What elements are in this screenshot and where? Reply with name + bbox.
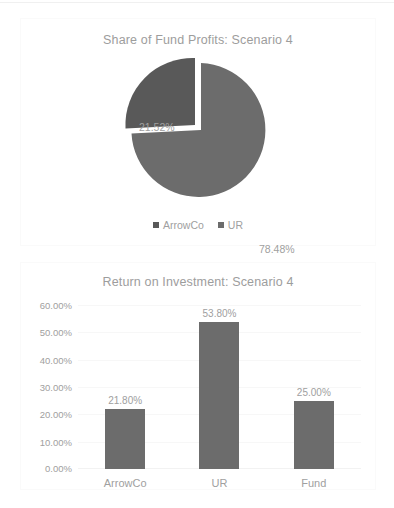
bar-arrowco[interactable]: 21.80% xyxy=(105,409,145,469)
pie-graphic xyxy=(109,55,289,205)
pie-chart-title: Share of Fund Profits: Scenario 4 xyxy=(21,33,375,47)
x-axis-tick-label-fund: Fund xyxy=(301,477,326,489)
bar-ur[interactable]: 53.80% xyxy=(199,322,239,469)
x-axis-tick-label-ur: UR xyxy=(212,477,228,489)
bar-value-label-arrowco: 21.80% xyxy=(108,395,142,406)
bar-value-label-fund: 25.00% xyxy=(297,387,331,398)
bar-value-label-ur: 53.80% xyxy=(203,308,237,319)
pie-data-label-ur: 78.48% xyxy=(259,243,295,255)
page-top-divider xyxy=(0,2,394,3)
bar-column-ur: 53.80% UR xyxy=(172,305,266,469)
bar-fund[interactable]: 25.00% xyxy=(294,401,334,469)
x-axis-tick-label-arrowco: ArrowCo xyxy=(104,477,147,489)
y-axis-tick-label: 10.00% xyxy=(40,436,72,447)
y-axis-tick-label: 20.00% xyxy=(40,409,72,420)
y-axis-tick-label: 60.00% xyxy=(40,300,72,311)
pie-legend: ArrowCo UR xyxy=(21,219,375,231)
bar-column-fund: 25.00% Fund xyxy=(267,305,361,469)
legend-item-arrowco[interactable]: ArrowCo xyxy=(153,219,204,231)
pie-slice-arrowco[interactable] xyxy=(125,58,195,129)
y-axis-tick-label: 30.00% xyxy=(40,382,72,393)
bar-chart-panel[interactable]: Return on Investment: Scenario 4 60.00% … xyxy=(20,262,376,490)
legend-label-arrowco: ArrowCo xyxy=(163,219,204,231)
legend-item-ur[interactable]: UR xyxy=(218,219,243,231)
pie-chart-panel[interactable]: Share of Fund Profits: Scenario 4 21.52%… xyxy=(20,18,376,246)
pie-plot-area: 21.52% 78.48% xyxy=(21,55,377,205)
y-axis-tick-label: 50.00% xyxy=(40,327,72,338)
bar-chart-title: Return on Investment: Scenario 4 xyxy=(21,275,375,289)
pie-data-label-arrowco: 21.52% xyxy=(139,121,175,133)
y-axis-tick-label: 0.00% xyxy=(45,463,72,474)
legend-label-ur: UR xyxy=(228,219,243,231)
y-axis-tick-label: 40.00% xyxy=(40,354,72,365)
bar-column-arrowco: 21.80% ArrowCo xyxy=(78,305,172,469)
bar-plot-area: 60.00% 50.00% 40.00% 30.00% 20.00% 10.00… xyxy=(78,305,361,469)
legend-swatch-icon xyxy=(153,222,159,228)
legend-swatch-icon xyxy=(218,222,224,228)
